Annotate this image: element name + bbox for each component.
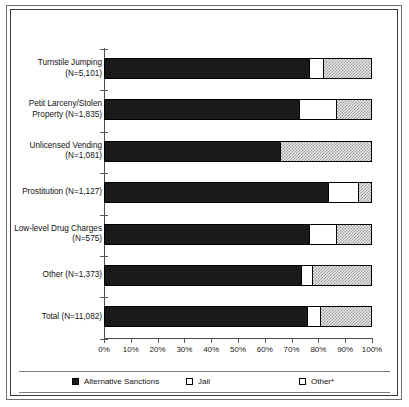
x-axis-tick bbox=[238, 338, 239, 343]
y-axis-tick bbox=[100, 256, 108, 257]
stacked-bar bbox=[104, 265, 372, 286]
y-axis-tick bbox=[100, 49, 108, 50]
bar-segment-jail bbox=[307, 306, 321, 327]
bar-segment-other bbox=[280, 141, 372, 162]
legend-label: Other* bbox=[311, 377, 334, 386]
bar-segment-jail bbox=[309, 58, 323, 79]
x-axis-tick bbox=[131, 338, 132, 343]
bar-segment-alternative-sanctions bbox=[104, 99, 300, 120]
bar-segment-other bbox=[358, 182, 372, 203]
legend-swatch-open-square-icon bbox=[186, 378, 193, 385]
stacked-bar bbox=[104, 58, 372, 79]
y-axis-tick bbox=[100, 90, 108, 91]
x-axis-tick bbox=[318, 338, 319, 343]
x-axis-tick bbox=[158, 338, 159, 343]
bar-segment-alternative-sanctions bbox=[104, 141, 281, 162]
bar-segment-alternative-sanctions bbox=[104, 224, 310, 245]
x-axis-tick bbox=[211, 338, 212, 343]
bar-segment-alternative-sanctions bbox=[104, 58, 310, 79]
bar-segment-other bbox=[336, 99, 372, 120]
bar-segment-jail bbox=[299, 99, 338, 120]
y-axis-tick bbox=[100, 173, 108, 174]
y-axis-category-label: Unlicensed Vending (N=1,081) bbox=[0, 141, 102, 162]
bar-segment-other bbox=[312, 265, 372, 286]
y-axis-category-label: Prostitution (N=1,127) bbox=[0, 187, 102, 198]
legend-swatch-hatched-square-icon bbox=[299, 378, 306, 385]
y-axis-category-label: Other (N=1,373) bbox=[0, 270, 102, 281]
y-axis-tick bbox=[100, 297, 108, 298]
y-axis-category-label: Total (N=11,082) bbox=[0, 312, 102, 323]
x-axis-tick bbox=[104, 338, 105, 343]
bar-segment-other bbox=[323, 58, 372, 79]
legend-swatch-filled-square-icon bbox=[72, 378, 79, 385]
stacked-bar bbox=[104, 182, 372, 203]
bar-segment-jail bbox=[309, 224, 337, 245]
y-axis-category-label: Petit Larceny/Stolen Property (N=1,835) bbox=[0, 99, 102, 120]
bar-segment-jail bbox=[328, 182, 358, 203]
x-axis-tick bbox=[372, 338, 373, 343]
y-axis-category-label: Low-level Drug Charges (N=575) bbox=[0, 224, 102, 245]
legend-label: Jail bbox=[198, 377, 210, 386]
y-axis-tick bbox=[100, 132, 108, 133]
y-axis-tick bbox=[100, 215, 108, 216]
chart-legend: Alternative SanctionsJailOther* bbox=[19, 371, 390, 393]
chart-figure: Turnstile Jumping (N=5,101)Petit Larceny… bbox=[0, 0, 409, 407]
stacked-bar bbox=[104, 224, 372, 245]
bar-segment-other bbox=[320, 306, 372, 327]
x-axis-tick bbox=[265, 338, 266, 343]
bar-segment-alternative-sanctions bbox=[104, 306, 308, 327]
legend-entry: Other* bbox=[299, 377, 334, 386]
x-axis-tick bbox=[184, 338, 185, 343]
y-axis-category-label: Turnstile Jumping (N=5,101) bbox=[0, 58, 102, 79]
bar-segment-alternative-sanctions bbox=[104, 182, 329, 203]
legend-entry: Alternative Sanctions bbox=[72, 377, 159, 386]
x-axis-tick bbox=[345, 338, 346, 343]
bar-segment-alternative-sanctions bbox=[104, 265, 302, 286]
x-axis-tick-label: 100% bbox=[355, 345, 389, 354]
stacked-bar bbox=[104, 99, 372, 120]
stacked-bar bbox=[104, 306, 372, 327]
stacked-bar bbox=[104, 141, 372, 162]
bar-segment-other bbox=[336, 224, 372, 245]
legend-entry: Jail bbox=[186, 377, 210, 386]
x-axis-tick bbox=[292, 338, 293, 343]
legend-label: Alternative Sanctions bbox=[84, 377, 159, 386]
